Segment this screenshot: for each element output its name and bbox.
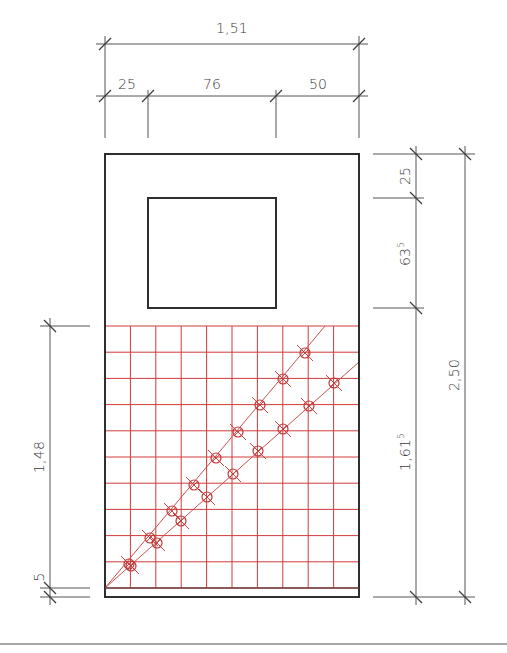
window-opening — [148, 198, 276, 308]
dim-label-sill-height-main: 1,61 — [397, 439, 413, 471]
dim-label-sill-height: 1,615 — [396, 433, 413, 471]
crosshair-marker-icon — [208, 450, 224, 466]
dim-label-right-margin: 50 — [309, 76, 327, 92]
dim-label-sill-height-sup: 5 — [396, 433, 406, 439]
dim-label-window-height-sup: 5 — [396, 242, 406, 248]
dim-label-total-width: 1,51 — [216, 20, 248, 36]
dim-label-total-height: 2,50 — [446, 359, 462, 391]
crosshair-marker-icon — [186, 477, 202, 493]
dim-label-top-margin: 25 — [397, 167, 413, 185]
tile-grid — [105, 326, 359, 588]
dim-label-tile-height: 1,48 — [31, 441, 47, 473]
dim-label-window-height: 635 — [396, 242, 413, 266]
elevation-drawing: 1,51 25 76 50 25 635 1,615 2,50 1,48 5 — [0, 0, 507, 653]
dim-label-window-width: 76 — [203, 76, 221, 92]
dim-label-window-height-main: 63 — [397, 248, 413, 266]
crosshair-marker-icon — [297, 345, 313, 361]
dim-label-base-height: 5 — [31, 572, 47, 581]
dim-label-left-margin: 25 — [118, 76, 136, 92]
